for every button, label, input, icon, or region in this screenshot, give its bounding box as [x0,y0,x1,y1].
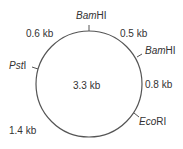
site-label-bamhi-right: BamHI [145,45,176,56]
segment-label-2: 0.8 kb [145,79,173,90]
plasmid-map: BamHI BamHI EcoRI PstI 0.5 kb 0.8 kb 1.4… [0,0,183,149]
site-label-bamhi-top: BamHI [76,10,107,21]
segment-label-3: 1.4 kb [9,125,37,136]
tick-bamhi-right [137,54,142,57]
tick-psti [32,67,38,69]
site-label-ecori: EcoRI [139,116,166,127]
plasmid-total-size: 3.3 kb [73,80,101,91]
site-label-psti: PstI [9,60,26,71]
segment-label-1: 0.5 kb [120,28,148,39]
segment-label-4: 0.6 kb [26,28,54,39]
